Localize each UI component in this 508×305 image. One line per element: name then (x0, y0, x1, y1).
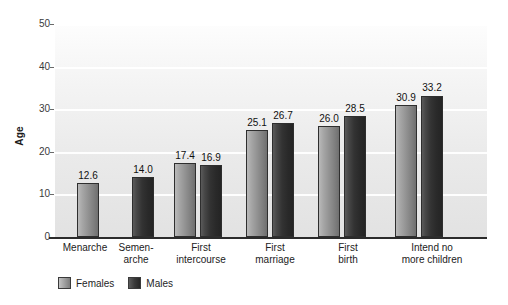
bar-value-label: 16.9 (196, 152, 226, 163)
y-axis-tick-group: 50 40 30 20 10 0 (14, 0, 50, 305)
bar-value-label: 14.0 (128, 164, 158, 175)
bar-females-intend-no-more-children[interactable] (395, 105, 417, 237)
y-axis-tick-label: 10 (24, 189, 50, 199)
y-axis-tickmark (50, 109, 54, 110)
gridline (55, 67, 487, 69)
bar-males-first-birth[interactable] (344, 116, 366, 237)
x-axis-label-first-intercourse: First intercourse (160, 242, 242, 266)
bar-chart: Age 50 40 30 20 10 0 (0, 0, 508, 305)
y-axis-tick-label: 30 (24, 104, 50, 114)
legend-label-females: Females (76, 278, 114, 289)
x-axis-label-first-marriage: First marriage (238, 242, 312, 266)
legend-item-females[interactable]: Females (58, 277, 114, 289)
y-axis-tickmark (50, 67, 54, 68)
plot-area (55, 24, 487, 237)
legend-item-males[interactable]: Males (128, 277, 173, 289)
x-axis-label-first-birth: First birth (315, 242, 381, 266)
female-swatch-icon (58, 277, 71, 289)
bar-males-first-intercourse[interactable] (200, 165, 222, 237)
y-axis-tickmark (50, 152, 54, 153)
gridline (55, 24, 487, 26)
y-axis-tickmark (50, 24, 54, 25)
bar-value-label: 33.2 (417, 82, 447, 93)
bar-females-first-marriage[interactable] (246, 130, 268, 237)
bar-females-first-birth[interactable] (318, 126, 340, 237)
x-axis-label-semenarche: Semen- arche (104, 242, 168, 266)
bar-males-intend-no-more-children[interactable] (421, 96, 443, 237)
bar-value-label: 26.0 (314, 113, 344, 124)
legend: Females Males (58, 277, 173, 289)
bar-value-label: 12.6 (73, 170, 103, 181)
y-axis-tick-label: 20 (24, 147, 50, 157)
y-axis-tick-label: 50 (24, 19, 50, 29)
legend-label-males: Males (146, 278, 173, 289)
bar-males-semenarche[interactable] (132, 177, 154, 237)
y-axis-tick-label: 0 (24, 232, 50, 242)
bar-value-label: 30.9 (391, 92, 421, 103)
bar-females-first-intercourse[interactable] (174, 163, 196, 237)
bar-value-label: 26.7 (268, 110, 298, 121)
bar-males-first-marriage[interactable] (272, 123, 294, 237)
bar-value-label: 28.5 (340, 103, 370, 114)
male-swatch-icon (128, 277, 141, 289)
y-axis-tickmark (50, 194, 54, 195)
bar-females-menarche[interactable] (77, 183, 99, 237)
x-axis-label-intend-no-more-children: Intend no more children (378, 242, 486, 266)
y-axis-tick-label: 40 (24, 62, 50, 72)
x-axis-line (49, 237, 487, 239)
